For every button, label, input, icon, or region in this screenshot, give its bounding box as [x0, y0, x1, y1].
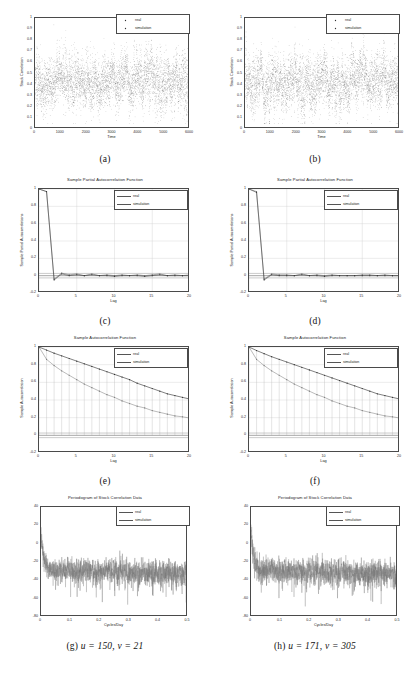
legend-line-simulation-icon	[329, 518, 343, 522]
x-axis-label-g: Cycles/Day	[40, 623, 187, 627]
y-axis-label-f: Sample Autocorrelation	[230, 348, 234, 448]
caption-h-prefix: (h)	[274, 641, 286, 651]
legend-entry-real-f: real	[327, 350, 395, 358]
plot-area-b: Stock Correlation 0 0.1 0.2 0.3 0.4 0.5 …	[220, 4, 410, 152]
scatter-canvas-a	[35, 18, 189, 128]
plot-title-g: Periodogram of Stock Correlation Data	[10, 495, 200, 500]
legend-line-simulation-icon	[327, 202, 341, 206]
caption-e: (e)	[99, 476, 110, 486]
y-axis-label-d: Sample Partial Autocorrelations	[230, 185, 234, 295]
plot-area-a: Stock Correlation 0 0.1 0.2 0.3 0.4 0.5 …	[10, 4, 200, 152]
legend-e[interactable]: real simulation	[114, 348, 188, 368]
legend-line-simulation-icon	[327, 360, 341, 364]
x-axis-label-d: Lag	[248, 299, 399, 303]
plot-title-f: Sample Autocorrelation Function	[220, 335, 410, 340]
legend-entry-simulation-h: simulation	[329, 516, 397, 524]
legend-entry-simulation-e: simulation	[117, 358, 185, 366]
legend-line-real-icon	[119, 510, 133, 514]
plot-title-h: Periodogram of Stock Correlation Data	[220, 495, 410, 500]
caption-b: (b)	[309, 154, 321, 164]
legend-b[interactable]: real simulation	[326, 14, 400, 34]
caption-g: (g) u = 150, v = 21	[66, 641, 143, 651]
panel-a: Stock Correlation 0 0.1 0.2 0.3 0.4 0.5 …	[0, 4, 210, 176]
caption-g-prefix: (g)	[66, 641, 78, 651]
legend-line-real-icon	[327, 194, 341, 198]
legend-entry-simulation-f: simulation	[327, 358, 395, 366]
legend-d[interactable]: real simulation	[324, 190, 398, 210]
x-axis-label-c: Lag	[38, 299, 189, 303]
x-axis-label-b: Time	[244, 135, 399, 139]
caption-g-math: u = 150, v = 21	[81, 641, 144, 651]
panel-g: Periodogram of Stock Correlation Data -8…	[0, 494, 210, 666]
legend-entry-real-b: real	[329, 16, 397, 24]
caption-h: (h) u = 171, v = 305	[274, 641, 356, 651]
plot-title-d: Sample Partial Autocorrelation Function	[220, 177, 410, 182]
x-axis-label-a: Time	[34, 135, 189, 139]
plot-title-c: Sample Partial Autocorrelation Function	[10, 177, 200, 182]
panel-b: Stock Correlation 0 0.1 0.2 0.3 0.4 0.5 …	[210, 4, 420, 176]
panel-row-periodogram: Periodogram of Stock Correlation Data -8…	[0, 494, 420, 666]
legend-marker-simulation-icon	[329, 26, 343, 30]
legend-marker-real-icon	[329, 18, 343, 22]
panel-row-acf: Sample Autocorrelation Function Sample A…	[0, 334, 420, 494]
plot-area-c: Sample Partial Autocorrelation Function …	[10, 176, 200, 314]
panel-row-pacf: Sample Partial Autocorrelation Function …	[0, 176, 420, 334]
panel-h: Periodogram of Stock Correlation Data -8…	[210, 494, 420, 666]
caption-d: (d)	[309, 316, 321, 326]
legend-line-real-icon	[117, 352, 131, 356]
legend-entry-real-d: real	[327, 192, 395, 200]
legend-h[interactable]: real simulation	[326, 506, 400, 526]
plot-area-h: Periodogram of Stock Correlation Data -8…	[220, 494, 410, 639]
legend-line-simulation-icon	[117, 360, 131, 364]
legend-line-simulation-icon	[119, 518, 133, 522]
legend-line-real-icon	[117, 194, 131, 198]
plot-title-e: Sample Autocorrelation Function	[10, 335, 200, 340]
plot-area-d: Sample Partial Autocorrelation Function …	[220, 176, 410, 314]
legend-entry-simulation-c: simulation	[117, 200, 185, 208]
panel-row-scatter: Stock Correlation 0 0.1 0.2 0.3 0.4 0.5 …	[0, 4, 420, 176]
legend-entry-simulation-g: simulation	[119, 516, 187, 524]
legend-marker-real-icon	[119, 18, 133, 22]
legend-entry-real-c: real	[117, 192, 185, 200]
caption-a: (a)	[99, 154, 110, 164]
legend-entry-simulation-a: simulation	[119, 24, 187, 32]
y-axis-label-c: Sample Partial Autocorrelations	[20, 185, 24, 295]
plot-area-f: Sample Autocorrelation Function Sample A…	[220, 334, 410, 474]
panel-d: Sample Partial Autocorrelation Function …	[210, 176, 420, 334]
legend-line-simulation-icon	[117, 202, 131, 206]
legend-entry-simulation-d: simulation	[327, 200, 395, 208]
y-axis-label-a: Stock Correlation	[20, 22, 24, 122]
x-axis-label-h: Cycles/Day	[250, 623, 397, 627]
x-axis-label-e: Lag	[38, 459, 189, 463]
legend-entry-real-g: real	[119, 508, 187, 516]
y-axis-label-b: Stock Correlation	[230, 22, 234, 122]
x-axis-label-f: Lag	[248, 459, 399, 463]
panel-e: Sample Autocorrelation Function Sample A…	[0, 334, 210, 494]
legend-marker-simulation-icon	[119, 26, 133, 30]
legend-entry-real-h: real	[329, 508, 397, 516]
figure-panel-grid: Stock Correlation 0 0.1 0.2 0.3 0.4 0.5 …	[0, 0, 420, 679]
plot-area-g: Periodogram of Stock Correlation Data -8…	[10, 494, 200, 639]
legend-c[interactable]: real simulation	[114, 190, 188, 210]
caption-h-math: u = 171, v = 305	[288, 641, 356, 651]
scatter-canvas-b	[245, 18, 399, 128]
caption-c: (c)	[99, 316, 110, 326]
legend-line-real-icon	[329, 510, 343, 514]
panel-f: Sample Autocorrelation Function Sample A…	[210, 334, 420, 494]
legend-entry-real-e: real	[117, 350, 185, 358]
y-axis-label-e: Sample Autocorrelation	[20, 348, 24, 448]
legend-a[interactable]: real simulation	[116, 14, 190, 34]
legend-f[interactable]: real simulation	[324, 348, 398, 368]
legend-entry-real-a: real	[119, 16, 187, 24]
panel-c: Sample Partial Autocorrelation Function …	[0, 176, 210, 334]
legend-entry-simulation-b: simulation	[329, 24, 397, 32]
plot-area-e: Sample Autocorrelation Function Sample A…	[10, 334, 200, 474]
caption-f: (f)	[310, 476, 320, 486]
legend-g[interactable]: real simulation	[116, 506, 190, 526]
legend-line-real-icon	[327, 352, 341, 356]
